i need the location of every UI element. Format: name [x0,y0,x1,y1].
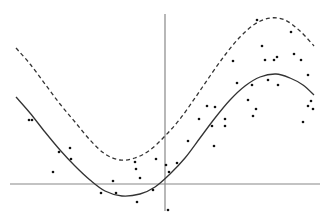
data-point [307,105,310,108]
data-point [168,171,171,174]
data-point [167,209,170,212]
data-point [187,140,190,143]
data-point [251,84,254,87]
scatter-chart [0,0,329,221]
data-point [214,106,217,109]
data-point [264,59,267,62]
data-point [198,118,201,121]
data-point [165,164,168,167]
data-point [293,53,296,56]
data-point [300,59,303,62]
data-point [307,74,310,77]
data-point [206,105,209,108]
data-point [290,31,293,34]
data-point [139,177,142,180]
data-point [302,121,305,124]
data-point [277,84,280,87]
data-point [261,45,264,48]
data-point [115,192,118,195]
data-points [28,19,315,212]
data-point [176,162,179,165]
data-point [232,60,235,63]
data-point [155,158,158,161]
data-point [273,59,276,62]
data-point [252,115,255,118]
data-point [135,168,138,171]
data-point [224,125,227,128]
data-point [69,147,72,150]
data-point [213,145,216,148]
data-point [31,119,34,122]
data-point [52,171,55,174]
data-point [134,161,137,164]
data-point [267,79,270,82]
data-point [312,108,315,111]
data-point [236,82,239,85]
data-point [247,99,250,102]
data-point [310,100,313,103]
data-point [276,56,279,59]
data-point [100,192,103,195]
data-point [211,125,214,128]
data-point [112,180,115,183]
data-point [58,151,61,154]
data-point [136,201,139,204]
data-point [152,189,155,192]
data-point [70,158,73,161]
data-point [28,119,31,122]
data-point [256,19,259,22]
data-point [224,118,227,121]
data-point [255,108,258,111]
